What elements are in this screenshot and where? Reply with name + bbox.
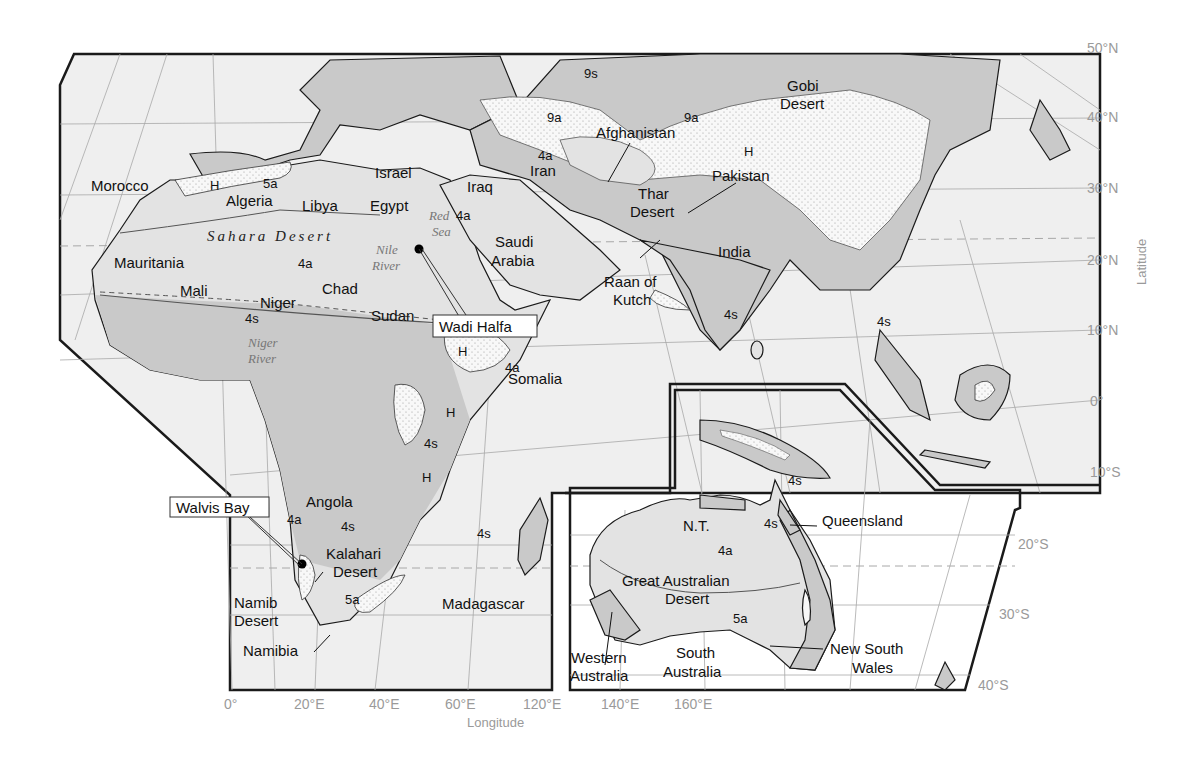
longitude-axis: 0° 20°E 40°E 60°E 120°E 140°E 160°E Long… — [224, 696, 712, 730]
svg-text:Morocco: Morocco — [91, 177, 149, 194]
svg-text:H: H — [446, 405, 455, 420]
svg-text:Desert: Desert — [234, 612, 279, 629]
svg-text:5a: 5a — [263, 176, 278, 191]
svg-text:Saudi: Saudi — [495, 233, 533, 250]
svg-text:H: H — [422, 470, 431, 485]
svg-text:Australia: Australia — [663, 663, 722, 680]
svg-text:Nile: Nile — [375, 242, 398, 257]
svg-text:Algeria: Algeria — [226, 192, 273, 209]
svg-text:4a: 4a — [538, 148, 553, 163]
svg-text:4s: 4s — [877, 314, 891, 329]
svg-text:4a: 4a — [456, 208, 471, 223]
svg-text:Gobi: Gobi — [787, 77, 819, 94]
svg-text:20°N: 20°N — [1087, 252, 1118, 268]
svg-text:4s: 4s — [788, 473, 802, 488]
svg-text:4a: 4a — [505, 360, 520, 375]
svg-text:Israel: Israel — [375, 164, 412, 181]
svg-text:Libya: Libya — [302, 197, 339, 214]
svg-text:H: H — [458, 344, 467, 359]
svg-text:4a: 4a — [718, 543, 733, 558]
svg-text:4a: 4a — [298, 256, 313, 271]
svg-text:Australia: Australia — [570, 667, 629, 684]
svg-text:H: H — [744, 144, 753, 159]
svg-text:Namibia: Namibia — [243, 642, 299, 659]
svg-text:9a: 9a — [684, 110, 699, 125]
svg-text:160°E: 160°E — [674, 696, 712, 712]
svg-text:20°E: 20°E — [294, 696, 325, 712]
svg-text:Mali: Mali — [180, 282, 208, 299]
svg-text:Afghanistan: Afghanistan — [596, 124, 675, 141]
svg-text:River: River — [371, 258, 401, 273]
svg-text:Sea: Sea — [432, 224, 451, 239]
svg-text:H: H — [210, 178, 219, 193]
svg-text:Arabia: Arabia — [491, 252, 535, 269]
svg-text:20°S: 20°S — [1018, 536, 1049, 552]
svg-text:Sahara Desert: Sahara Desert — [207, 228, 333, 244]
svg-text:Desert: Desert — [780, 95, 825, 112]
svg-text:5a: 5a — [345, 592, 360, 607]
svg-text:Angola: Angola — [306, 493, 353, 510]
svg-text:Desert: Desert — [665, 590, 710, 607]
svg-text:Walvis Bay: Walvis Bay — [176, 499, 250, 516]
svg-text:Egypt: Egypt — [370, 197, 409, 214]
wadi-halfa-callout: Wadi Halfa — [433, 315, 537, 337]
svg-text:10°N: 10°N — [1087, 322, 1118, 338]
svg-text:4s: 4s — [764, 516, 778, 531]
svg-text:Pakistan: Pakistan — [712, 167, 770, 184]
walvis-bay-callout: Walvis Bay — [170, 497, 269, 517]
svg-text:30°S: 30°S — [999, 606, 1030, 622]
svg-text:Mauritania: Mauritania — [114, 254, 185, 271]
svg-text:140°E: 140°E — [601, 696, 639, 712]
svg-text:Queensland: Queensland — [822, 512, 903, 529]
svg-text:9s: 9s — [584, 66, 598, 81]
svg-text:Western: Western — [571, 649, 627, 666]
svg-text:Wadi Halfa: Wadi Halfa — [439, 318, 512, 335]
desert-climate-map: Wadi Halfa Walvis Bay Morocco Algeria Li… — [0, 0, 1197, 760]
svg-text:India: India — [718, 243, 751, 260]
svg-text:50°N: 50°N — [1087, 40, 1118, 56]
svg-text:N.T.: N.T. — [683, 517, 710, 534]
svg-text:River: River — [247, 351, 277, 366]
svg-text:0°: 0° — [1090, 393, 1103, 409]
svg-text:Thar: Thar — [638, 185, 669, 202]
svg-text:5a: 5a — [733, 611, 748, 626]
svg-text:Niger: Niger — [260, 294, 296, 311]
svg-text:Wales: Wales — [852, 659, 893, 676]
svg-text:4s: 4s — [724, 307, 738, 322]
svg-text:Great Australian: Great Australian — [622, 572, 730, 589]
svg-text:Sudan: Sudan — [371, 307, 414, 324]
svg-text:4s: 4s — [477, 526, 491, 541]
svg-text:Niger: Niger — [247, 335, 279, 350]
svg-text:Madagascar: Madagascar — [442, 595, 525, 612]
svg-text:Kalahari: Kalahari — [326, 545, 381, 562]
svg-text:New South: New South — [830, 640, 903, 657]
svg-text:60°E: 60°E — [445, 696, 476, 712]
svg-text:Iran: Iran — [530, 162, 556, 179]
svg-text:40°N: 40°N — [1087, 109, 1118, 125]
svg-text:40°E: 40°E — [369, 696, 400, 712]
svg-text:40°S: 40°S — [978, 677, 1009, 693]
svg-text:South: South — [676, 644, 715, 661]
svg-text:9a: 9a — [547, 110, 562, 125]
svg-text:120°E: 120°E — [523, 696, 561, 712]
svg-text:Desert: Desert — [630, 203, 675, 220]
svg-text:4s: 4s — [341, 519, 355, 534]
svg-text:Chad: Chad — [322, 280, 358, 297]
svg-text:0°: 0° — [224, 696, 237, 712]
svg-text:Namib: Namib — [234, 594, 277, 611]
svg-text:Latitude: Latitude — [1134, 239, 1149, 285]
svg-text:30°N: 30°N — [1087, 180, 1118, 196]
svg-text:4s: 4s — [424, 436, 438, 451]
svg-text:4s: 4s — [245, 311, 259, 326]
svg-text:Longitude: Longitude — [467, 715, 524, 730]
svg-text:Desert: Desert — [333, 563, 378, 580]
svg-text:Raan of: Raan of — [604, 273, 657, 290]
svg-text:Kutch: Kutch — [613, 291, 651, 308]
svg-text:10°S: 10°S — [1090, 464, 1121, 480]
svg-text:Iraq: Iraq — [467, 178, 493, 195]
svg-text:4a: 4a — [287, 512, 302, 527]
svg-text:Red: Red — [428, 208, 450, 223]
